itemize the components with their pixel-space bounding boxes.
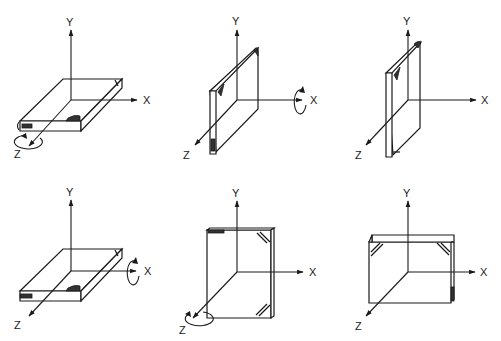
x-label: X	[143, 94, 151, 106]
x-label: X	[309, 266, 317, 278]
z-label: Z	[183, 149, 190, 161]
z-label: Z	[179, 324, 186, 336]
case-upright-tall	[386, 42, 421, 157]
x-label: X	[310, 94, 318, 106]
x-label: X	[480, 266, 488, 278]
panel-1: Y X Z	[14, 16, 151, 160]
x-label: X	[481, 94, 489, 106]
y-label: Y	[66, 16, 74, 28]
panel-5: Y X Z	[179, 187, 317, 336]
y-label: Y	[403, 15, 411, 27]
panel-6: Y X Z	[355, 187, 488, 332]
y-label: Y	[403, 187, 411, 199]
y-label: Y	[232, 187, 240, 199]
z-label: Z	[355, 149, 362, 161]
z-label: Z	[14, 148, 21, 160]
orientation-diagram: Y X Z Y X Z	[0, 0, 501, 341]
panel-3: Y X Z	[355, 15, 489, 161]
panel-4: Y X Z	[14, 186, 152, 331]
case-portrait	[207, 228, 274, 318]
z-label: Z	[355, 320, 362, 332]
y-label: Y	[232, 15, 240, 27]
case-landscape	[369, 235, 454, 303]
panel-2: Y X Z	[183, 15, 318, 161]
case-upright	[210, 48, 258, 154]
y-label: Y	[66, 186, 74, 198]
case-flat	[18, 79, 123, 131]
x-label: X	[144, 265, 152, 277]
z-label: Z	[14, 319, 21, 331]
